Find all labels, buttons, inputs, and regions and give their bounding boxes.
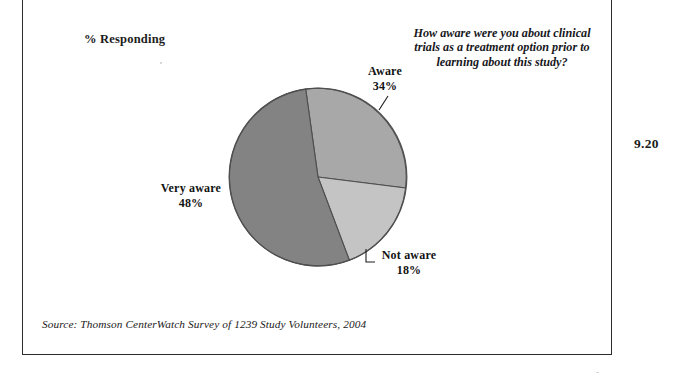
axis-label-percent-responding: % Responding xyxy=(84,32,165,47)
pie-label-very-aware-value: 48% xyxy=(179,196,204,210)
pie-label-aware-value: 34% xyxy=(373,79,398,93)
figure-number: 9.20 xyxy=(634,136,659,152)
pie-label-very-aware-name: Very aware xyxy=(161,181,221,195)
scan-speck xyxy=(596,372,599,373)
pie-label-aware: Aware 34% xyxy=(355,64,415,94)
pie-label-not-aware-name: Not aware xyxy=(382,248,437,262)
survey-question-text: How aware were you about clinical trials… xyxy=(404,26,600,69)
figure-page: 9.20 % Responding How aware were you abo… xyxy=(0,0,685,389)
pie-label-very-aware: Very aware 48% xyxy=(148,181,234,211)
pie-label-not-aware-value: 18% xyxy=(397,263,422,277)
source-citation: Source: Thomson CenterWatch Survey of 12… xyxy=(42,318,366,330)
pie-label-aware-name: Aware xyxy=(368,64,402,78)
scan-speck xyxy=(160,62,162,64)
pie-label-not-aware: Not aware 18% xyxy=(370,248,448,278)
